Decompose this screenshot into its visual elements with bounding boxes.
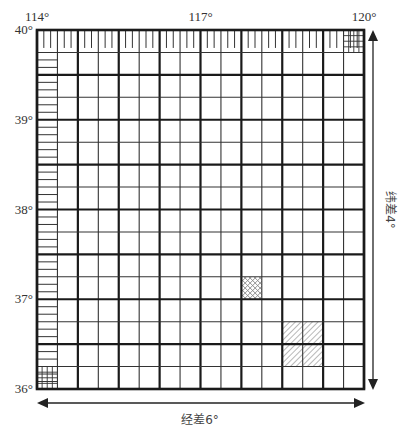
latitude-label: 40°: [15, 22, 33, 37]
latitude-label: 36°: [15, 381, 33, 396]
map-grid-diagram: 114°117°120°40°39°38°37°36° 经差6° 纬差4°: [0, 0, 408, 435]
latitude-span-label: 纬差4°: [383, 191, 397, 229]
latitude-label: 37°: [15, 291, 33, 306]
cross-hatched-sheet-highlight: [219, 277, 306, 299]
longitude-label: 120°: [352, 9, 377, 24]
latitude-label: 39°: [15, 112, 33, 127]
latitude-label: 38°: [15, 202, 33, 217]
latitude-span-arrow: [368, 30, 378, 390]
longitude-label: 117°: [188, 9, 212, 24]
longitude-span-arrow: [37, 398, 365, 408]
longitude-span-label: 经差6°: [181, 413, 219, 427]
